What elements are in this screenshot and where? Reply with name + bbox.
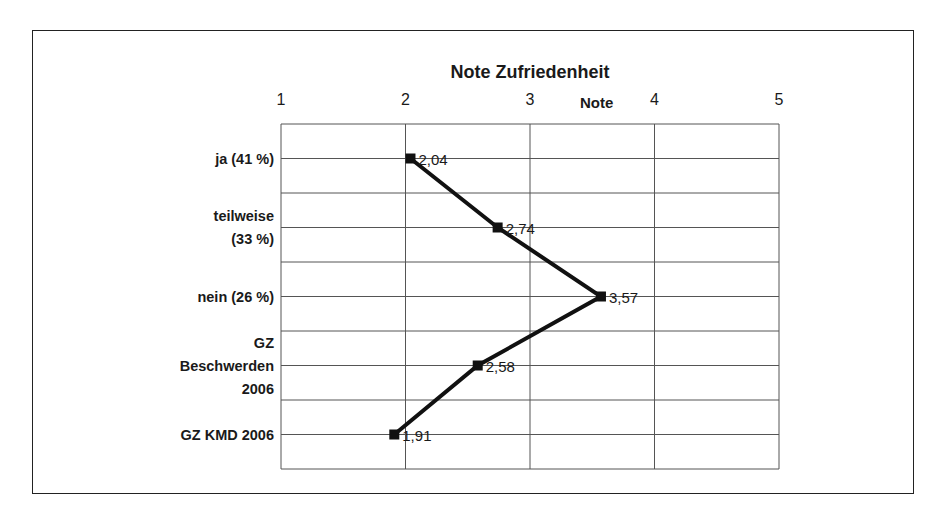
data-value-label: 3,57: [609, 288, 638, 305]
data-point-marker: [596, 292, 606, 302]
data-value-label: 2,04: [418, 150, 447, 167]
data-point-marker: [389, 430, 399, 440]
data-value-label: 2,58: [486, 357, 515, 374]
data-value-label: 2,74: [506, 219, 535, 236]
plot-area: [0, 0, 946, 524]
data-point-marker: [473, 361, 483, 371]
data-value-label: 1,91: [402, 426, 431, 443]
data-point-marker: [493, 223, 503, 233]
data-point-marker: [405, 154, 415, 164]
gridlines: [281, 124, 779, 469]
